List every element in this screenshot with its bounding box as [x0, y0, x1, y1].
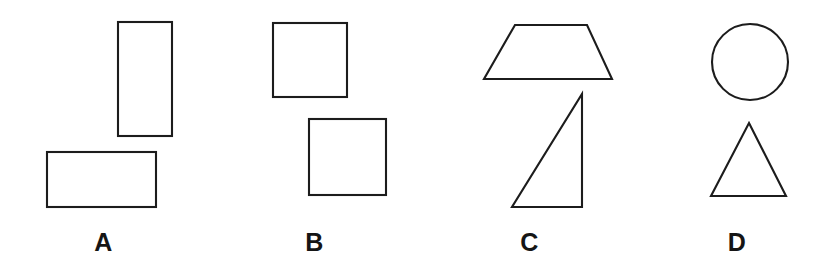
panel-label-d: D: [637, 228, 837, 256]
panel-label-a: A: [0, 228, 207, 256]
upper-square-shape: [273, 23, 347, 97]
shape-group-a: A: [0, 0, 207, 278]
circle-shape: [712, 24, 788, 100]
right-triangle-shape: [512, 94, 582, 207]
tall-rectangle-shape: [118, 22, 172, 136]
panel-label-b: B: [207, 228, 422, 256]
figure-canvas: A B C D: [0, 0, 837, 278]
lower-square-shape: [309, 119, 386, 195]
shape-group-b: B: [207, 0, 422, 278]
panel-label-c: C: [422, 228, 637, 256]
wide-rectangle-shape: [47, 152, 156, 207]
isosceles-triangle-shape: [711, 123, 786, 196]
shape-group-c: C: [422, 0, 637, 278]
trapezoid-shape: [484, 25, 612, 79]
shape-group-d: D: [637, 0, 837, 278]
